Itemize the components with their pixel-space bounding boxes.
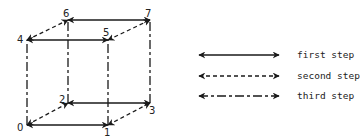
legend-label-third: third step: [297, 90, 354, 101]
vertex-label-3: 3: [149, 105, 155, 116]
legend-item-second: second step: [199, 70, 360, 81]
cube-edges: [27, 20, 150, 125]
edge-4-6: [27, 20, 68, 40]
legend-label-second: second step: [297, 70, 360, 81]
vertex-label-0: 0: [17, 122, 23, 133]
vertex-label-4: 4: [17, 34, 23, 45]
edge-5-7: [108, 20, 150, 40]
legend: first stepsecond stepthird step: [199, 49, 360, 101]
vertex-label-2: 2: [59, 94, 65, 105]
edge-0-2: [27, 103, 68, 125]
vertex-label-7: 7: [145, 8, 151, 19]
vertex-label-5: 5: [103, 27, 109, 38]
vertex-label-6: 6: [63, 8, 69, 19]
legend-item-third: third step: [199, 90, 354, 101]
vertex-label-1: 1: [104, 127, 110, 138]
cube-diagram: 01234567 first stepsecond stepthird step: [0, 0, 362, 140]
cube-graph: 01234567 first stepsecond stepthird step: [0, 0, 362, 140]
legend-label-first: first step: [297, 49, 354, 60]
legend-item-first: first step: [199, 49, 354, 60]
edge-1-3: [108, 103, 150, 125]
